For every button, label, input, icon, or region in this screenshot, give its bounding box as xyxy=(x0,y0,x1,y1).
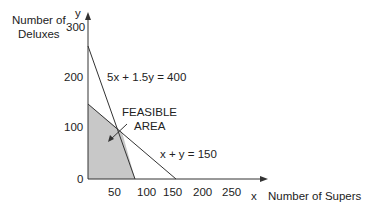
x-tick-100: 100 xyxy=(137,186,156,198)
x-tick-50: 50 xyxy=(108,186,121,198)
y-axis-symbol: y xyxy=(75,7,81,19)
y-tick-200: 200 xyxy=(64,71,83,83)
equation-label-2: x + y = 150 xyxy=(160,148,217,160)
x-axis-title: Number of Supers xyxy=(268,190,362,202)
equation-label-1: 5x + 1.5y = 400 xyxy=(107,71,186,83)
x-axis-symbol: x xyxy=(251,190,257,202)
y-axis-title-line1: Number of xyxy=(12,14,66,26)
y-axis-title-line2: Deluxes xyxy=(18,28,60,40)
x-axis-arrow-icon xyxy=(260,176,268,182)
x-tick-200: 200 xyxy=(193,186,212,198)
feasible-label-line1: FEASIBLE xyxy=(122,106,177,118)
y-tick-0: 0 xyxy=(77,173,83,185)
chart: Number of Deluxes y 300 200 100 0 50 100… xyxy=(0,0,370,208)
y-axis-arrow-icon xyxy=(85,12,91,20)
y-tick-300: 300 xyxy=(66,21,85,33)
y-tick-100: 100 xyxy=(64,121,83,133)
x-tick-250: 250 xyxy=(222,186,241,198)
feasible-label-line2: AREA xyxy=(134,120,166,132)
x-tick-150: 150 xyxy=(163,186,182,198)
